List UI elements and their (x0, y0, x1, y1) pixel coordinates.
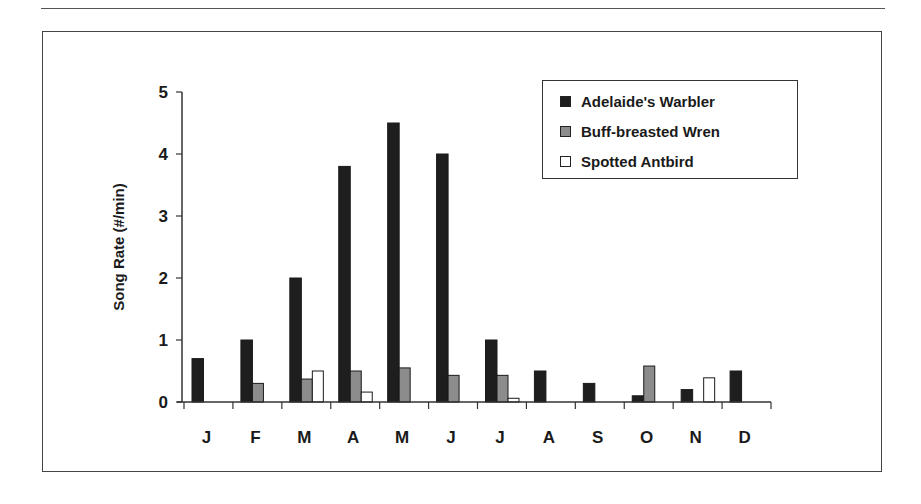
legend-swatch-gray (560, 126, 571, 137)
bar-spotted-antbird-3 (361, 392, 372, 402)
bar-adelaide-s-warbler-4 (388, 123, 400, 402)
bar-buff-breasted-wren-5 (448, 375, 459, 402)
legend: Adelaide's Warbler Buff-breasted Wren Sp… (542, 80, 798, 179)
y-tick-label: 2 (159, 269, 168, 288)
bar-adelaide-s-warbler-5 (437, 154, 449, 402)
y-axis-title: Song Rate (#/min) (110, 183, 127, 311)
bar-adelaide-s-warbler-10 (681, 390, 693, 402)
x-tick-label: J (495, 428, 504, 447)
y-tick-label: 5 (159, 83, 168, 102)
legend-item-spotted-antbird: Spotted Antbird (560, 153, 694, 170)
bar-chart: 012345JFMAMJJASOND Song Rate (#/min) (0, 0, 921, 504)
x-tick-label: A (347, 428, 359, 447)
bar-buff-breasted-wren-6 (497, 375, 508, 402)
x-tick-label: M (395, 428, 409, 447)
bar-adelaide-s-warbler-8 (583, 383, 595, 402)
bar-adelaide-s-warbler-6 (486, 340, 498, 402)
legend-swatch-black (560, 96, 571, 107)
legend-label: Spotted Antbird (581, 153, 694, 170)
x-tick-label: M (297, 428, 311, 447)
bar-spotted-antbird-10 (704, 378, 715, 402)
bar-adelaide-s-warbler-1 (241, 340, 253, 402)
legend-label: Adelaide's Warbler (581, 93, 715, 110)
x-tick-label: F (250, 428, 260, 447)
x-tick-label: N (689, 428, 701, 447)
x-tick-label: S (592, 428, 603, 447)
y-tick-label: 0 (159, 393, 168, 412)
bar-adelaide-s-warbler-2 (290, 278, 302, 402)
y-tick-label: 3 (159, 207, 168, 226)
legend-swatch-white (560, 156, 571, 167)
x-tick-label: J (446, 428, 455, 447)
bar-spotted-antbird-2 (312, 371, 323, 402)
legend-label: Buff-breasted Wren (581, 123, 720, 140)
x-tick-label: D (738, 428, 750, 447)
bar-adelaide-s-warbler-11 (730, 371, 742, 402)
bar-adelaide-s-warbler-3 (339, 166, 351, 402)
x-tick-label: J (202, 428, 211, 447)
bar-buff-breasted-wren-2 (301, 379, 312, 402)
bar-adelaide-s-warbler-7 (534, 371, 546, 402)
bar-adelaide-s-warbler-0 (192, 359, 204, 402)
bar-buff-breasted-wren-9 (644, 366, 655, 402)
bar-adelaide-s-warbler-9 (632, 396, 644, 402)
x-tick-label: A (543, 428, 555, 447)
legend-item-adelaides-warbler: Adelaide's Warbler (560, 93, 715, 110)
legend-item-buff-breasted-wren: Buff-breasted Wren (560, 123, 720, 140)
x-tick-label: O (640, 428, 653, 447)
bar-buff-breasted-wren-3 (350, 371, 361, 402)
bar-buff-breasted-wren-1 (252, 383, 263, 402)
bar-buff-breasted-wren-4 (399, 368, 410, 402)
y-tick-label: 4 (159, 145, 169, 164)
y-tick-label: 1 (159, 331, 168, 350)
